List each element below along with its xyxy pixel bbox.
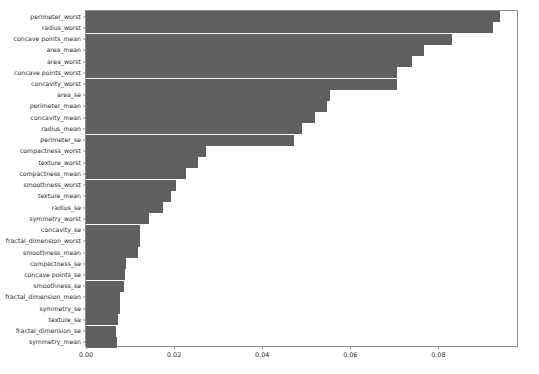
y-tick-mark (83, 207, 86, 208)
bar-row: symmetry_se (86, 303, 120, 314)
bar-row: concave points_se (86, 269, 125, 280)
bar-row: texture_mean (86, 191, 171, 202)
y-tick-mark (83, 342, 86, 343)
y-axis-tick-label: smoothness_se (34, 283, 81, 289)
y-axis-tick-label: texture_worst (39, 160, 81, 166)
y-axis-tick-label: perimeter_worst (30, 14, 81, 20)
bar (86, 303, 120, 314)
y-tick-mark (83, 185, 86, 186)
bar-row: perimeter_worst (86, 11, 500, 22)
bar (86, 11, 500, 22)
y-tick-mark (83, 27, 86, 28)
y-tick-mark (83, 241, 86, 242)
bar (86, 225, 140, 236)
bar (86, 337, 117, 348)
x-tick-mark (262, 346, 263, 349)
bar (86, 90, 330, 101)
chart-axes: perimeter_worstradius_worstconcave point… (85, 10, 518, 347)
bar (86, 101, 327, 112)
bar (86, 112, 315, 123)
y-axis-tick-label: texture_se (49, 317, 81, 323)
y-axis-tick-label: texture_mean (38, 193, 81, 199)
y-axis-tick-label: fractal_dimension_mean (5, 294, 81, 300)
bar-row: smoothness_worst (86, 180, 176, 191)
bar (86, 157, 198, 168)
y-tick-mark (83, 128, 86, 129)
bar-row: area_worst (86, 56, 412, 67)
bar-row: perimeter_mean (86, 101, 327, 112)
bar-row: compactness_mean (86, 168, 186, 179)
x-tick-mark (174, 346, 175, 349)
y-axis-tick-label: compactness_worst (20, 148, 81, 154)
y-axis-tick-label: fractal_dimension_se (16, 328, 81, 334)
y-axis-tick-label: concave points_mean (14, 36, 81, 42)
bar (86, 202, 163, 213)
y-tick-mark (83, 331, 86, 332)
x-tick-mark (438, 346, 439, 349)
y-tick-mark (83, 263, 86, 264)
y-axis-tick-label: perimeter_mean (30, 103, 81, 109)
y-tick-mark (83, 61, 86, 62)
y-tick-mark (83, 117, 86, 118)
x-axis-tick-label: 0.02 (167, 351, 181, 359)
y-tick-mark (83, 230, 86, 231)
y-tick-mark (83, 274, 86, 275)
bar (86, 258, 126, 269)
bar-row: concavity_mean (86, 112, 315, 123)
y-axis-tick-label: concavity_worst (31, 81, 81, 87)
x-axis-tick-label: 0.04 (255, 351, 269, 359)
x-tick-mark (86, 346, 87, 349)
y-axis-tick-label: concave points_se (24, 272, 81, 278)
bar (86, 314, 118, 325)
y-axis-tick-label: symmetry_worst (29, 216, 81, 222)
y-axis-tick-label: concavity_mean (31, 115, 81, 121)
x-tick-mark (350, 346, 351, 349)
y-axis-tick-label: symmetry_mean (29, 339, 81, 345)
y-tick-mark (83, 16, 86, 17)
bar (86, 67, 397, 78)
y-axis-tick-label: area_worst (47, 58, 81, 64)
y-tick-mark (83, 308, 86, 309)
bar-row: concave points_worst (86, 67, 397, 78)
bar (86, 135, 294, 146)
bar (86, 269, 125, 280)
bar-row: texture_worst (86, 157, 198, 168)
bar (86, 123, 302, 134)
y-tick-mark (83, 140, 86, 141)
y-tick-mark (83, 151, 86, 152)
bar-row: smoothness_mean (86, 247, 138, 258)
y-axis-tick-label: smoothness_mean (23, 249, 81, 255)
bar-row: fractal_dimension_worst (86, 236, 140, 247)
bar-row: symmetry_mean (86, 337, 117, 348)
bar (86, 236, 140, 247)
bar (86, 146, 206, 157)
bar-row: compactness_se (86, 258, 126, 269)
y-axis-tick-label: fractal_dimension_worst (6, 238, 81, 244)
bar-row: perimeter_se (86, 135, 294, 146)
y-tick-mark (83, 196, 86, 197)
y-tick-mark (83, 72, 86, 73)
plot-area: perimeter_worstradius_worstconcave point… (86, 11, 517, 346)
bar (86, 45, 424, 56)
bar-row: concavity_se (86, 225, 140, 236)
bar (86, 292, 120, 303)
y-tick-mark (83, 95, 86, 96)
bar-row: compactness_worst (86, 146, 206, 157)
bar (86, 281, 124, 292)
bar-row: concavity_worst (86, 79, 397, 90)
x-axis-tick-label: 0.00 (79, 351, 93, 359)
y-tick-mark (83, 173, 86, 174)
y-tick-mark (83, 50, 86, 51)
bar (86, 34, 452, 45)
x-axis-tick-label: 0.06 (343, 351, 357, 359)
figure: perimeter_worstradius_worstconcave point… (0, 0, 539, 374)
bar-row: symmetry_worst (86, 213, 149, 224)
y-axis-tick-label: radius_worst (42, 25, 81, 31)
y-axis-tick-label: concavity_se (41, 227, 81, 233)
bar-row: radius_worst (86, 22, 493, 33)
y-tick-mark (83, 218, 86, 219)
bar-row: fractal_dimension_se (86, 326, 116, 337)
bar-row: fractal_dimension_mean (86, 292, 120, 303)
bar-row: radius_mean (86, 123, 302, 134)
y-tick-mark (83, 84, 86, 85)
